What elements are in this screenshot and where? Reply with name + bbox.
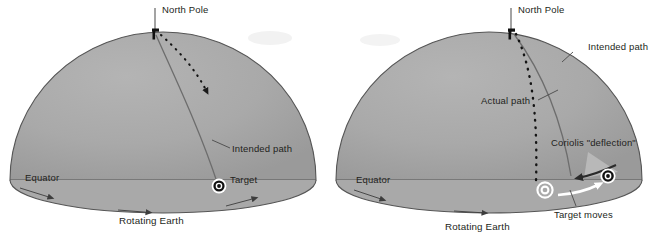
right-diagram-svg: North Pole In <box>326 0 652 236</box>
label-north-pole: North Pole <box>518 4 564 15</box>
caption-rotating-earth: Rotating Earth <box>119 215 184 226</box>
earth-dome <box>10 32 316 213</box>
paper-blotch <box>360 34 400 46</box>
label-intended-path: Intended path <box>588 41 648 52</box>
label-target-moves: Target moves <box>554 209 613 220</box>
caption-rotating-earth: Rotating Earth <box>445 221 510 232</box>
coriolis-figure: North Pole <box>0 0 652 236</box>
paper-blotch <box>248 31 292 45</box>
equator-ellipse <box>10 180 316 213</box>
label-equator: Equator <box>25 172 59 183</box>
left-diagram-svg: North Pole <box>0 0 326 236</box>
panel-non-rotating-view: North Pole <box>0 0 326 236</box>
label-intended-path: Intended path <box>232 143 292 154</box>
bullseye-icon <box>600 168 615 183</box>
panel-rotating-view: North Pole In <box>326 0 652 236</box>
label-equator: Equator <box>356 174 390 185</box>
label-coriolis-deflection: Coriolis "deflection" <box>551 137 636 148</box>
label-target: Target <box>230 174 258 185</box>
label-actual-path: Actual path <box>481 95 530 106</box>
bullseye-icon <box>212 179 227 194</box>
label-north-pole: North Pole <box>162 4 208 15</box>
